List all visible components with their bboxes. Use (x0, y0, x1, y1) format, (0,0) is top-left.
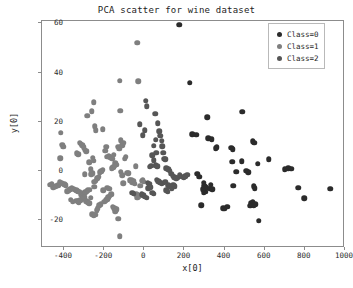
x-tick-label: 0 (141, 251, 146, 260)
scatter-point (82, 172, 88, 178)
scatter-point (100, 126, 106, 132)
scatter-point (328, 186, 334, 192)
scatter-point (209, 136, 215, 142)
x-tick-label: 600 (257, 251, 271, 260)
scatter-point (288, 166, 294, 172)
scatter-point (147, 164, 153, 170)
scatter-point (114, 207, 120, 213)
scatter-point (195, 171, 201, 177)
x-axis-label: x[0] (41, 263, 344, 273)
scatter-point (126, 171, 132, 177)
y-tick-label: 0 (33, 165, 63, 174)
scatter-point (88, 195, 94, 201)
scatter-point (123, 154, 129, 160)
scatter-point (151, 143, 157, 149)
scatter-point (205, 114, 211, 120)
x-tick-label: -400 (54, 251, 72, 260)
scatter-point (89, 108, 95, 114)
x-tick-label: 400 (217, 251, 231, 260)
y-tick-label: 40 (33, 67, 63, 76)
scatter-point (152, 111, 158, 117)
scatter-point (160, 150, 166, 156)
scatter-point (134, 40, 140, 46)
x-tick-mark (344, 247, 345, 250)
scatter-point (88, 171, 94, 177)
scatter-point (87, 201, 93, 207)
y-tick-label: 60 (33, 18, 63, 27)
scatter-point (91, 184, 97, 190)
scatter-point (93, 128, 99, 134)
x-tick-mark (63, 247, 64, 250)
scatter-point (187, 80, 193, 86)
scatter-point (245, 170, 251, 176)
scatter-point (251, 140, 257, 146)
legend-item[interactable]: Class=0 (273, 28, 319, 40)
legend: Class=0Class=1Class=2 (268, 23, 325, 69)
legend-item-label: Class=2 (287, 54, 319, 63)
scatter-point (210, 187, 216, 193)
legend-marker-icon (277, 56, 282, 61)
scatter-point (154, 163, 160, 169)
x-tick-mark (143, 247, 144, 250)
scatter-point (86, 159, 92, 165)
scatter-point (117, 234, 123, 240)
scatter-point (151, 158, 157, 164)
scatter-point (159, 138, 165, 144)
scatter-point (266, 157, 272, 163)
scatter-point (70, 199, 76, 205)
scatter-point (295, 185, 301, 191)
scatter-point (119, 172, 125, 178)
scatter-point (239, 109, 245, 115)
scatter-point (230, 183, 236, 189)
scatter-point (91, 99, 97, 105)
x-tick-mark (183, 247, 184, 250)
scatter-point (165, 189, 171, 195)
x-tick-mark (264, 247, 265, 250)
scatter-point (224, 204, 230, 210)
legend-item-label: Class=1 (287, 42, 319, 51)
x-tick-mark (304, 247, 305, 250)
x-tick-label: 1000 (335, 251, 353, 260)
scatter-point (74, 151, 80, 157)
scatter-point (189, 132, 195, 138)
scatter-point (121, 140, 127, 146)
scatter-point (60, 142, 66, 148)
figure-canvas: PCA scatter for wine dataset -400-200020… (0, 0, 353, 288)
scatter-point (116, 216, 122, 222)
scatter-point (151, 191, 157, 197)
scatter-point (58, 130, 64, 136)
scatter-point (48, 182, 54, 188)
scatter-point (256, 218, 262, 224)
scatter-point (160, 144, 166, 150)
scatter-point (100, 187, 106, 193)
legend-marker-icon (277, 44, 282, 49)
scatter-point (107, 186, 113, 192)
scatter-point (198, 203, 204, 209)
scatter-point (255, 161, 261, 167)
scatter-point (111, 152, 117, 158)
scatter-point (229, 159, 235, 165)
x-tick-label: 800 (297, 251, 311, 260)
scatter-point (176, 22, 182, 28)
scatter-point (153, 137, 159, 143)
x-tick-mark (103, 247, 104, 250)
legend-item[interactable]: Class=1 (273, 40, 319, 52)
legend-marker-icon (277, 32, 282, 37)
scatter-point (135, 79, 141, 85)
scatter-point (154, 150, 160, 156)
scatter-point (140, 132, 146, 138)
scatter-point (172, 183, 178, 189)
scatter-point (58, 155, 64, 161)
scatter-point (144, 104, 150, 110)
y-axis-label: y[0] (9, 93, 19, 153)
scatter-point (77, 140, 83, 146)
scatter-point (137, 122, 143, 128)
scatter-point (144, 195, 150, 201)
x-tick-label: -200 (94, 251, 112, 260)
scatter-point (155, 121, 161, 127)
scatter-point (162, 157, 168, 163)
scatter-point (88, 166, 94, 172)
scatter-point (252, 185, 258, 191)
legend-item[interactable]: Class=2 (273, 52, 319, 64)
scatter-point (230, 146, 236, 152)
